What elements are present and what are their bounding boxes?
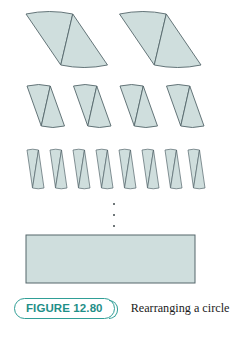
sector-strip-3 (27, 149, 205, 189)
limit-rectangle (26, 235, 195, 283)
ellipsis-dot (113, 225, 115, 227)
figure-number-label: FIGURE 12.80 (26, 302, 103, 314)
figure-container: FIGURE 12.80 Rearranging a circle (0, 0, 240, 337)
sector-strip-2 (27, 85, 204, 128)
ellipsis-dot (113, 214, 115, 216)
ellipsis-dot (113, 203, 115, 205)
figure-caption-text: Rearranging a circle (131, 301, 230, 316)
vertical-ellipsis-icon (108, 203, 120, 227)
circle-rearrangement-diagram (0, 0, 240, 300)
figure-caption-row: FIGURE 12.80 Rearranging a circle (0, 292, 240, 324)
sector-strip-1 (26, 12, 201, 68)
figure-number-badge: FIGURE 12.80 (14, 298, 115, 319)
